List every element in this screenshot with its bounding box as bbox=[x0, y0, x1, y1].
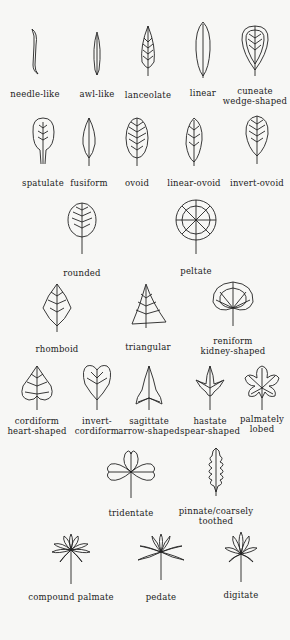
leaf-label: fusiform bbox=[66, 178, 112, 188]
pedate-leaf-icon bbox=[136, 532, 186, 582]
ovoid-leaf-icon bbox=[124, 116, 150, 166]
leaf-label: tridentate bbox=[96, 508, 166, 518]
hastate-leaf-icon bbox=[194, 364, 226, 410]
leaf-peltate: peltate bbox=[166, 198, 226, 276]
leaf-invert-ovoid: invert-ovoid bbox=[226, 114, 288, 188]
leaf-pinnate: pinnate/coarsely toothed bbox=[176, 446, 256, 526]
leaf-label: pinnate/coarsely bbox=[176, 506, 256, 516]
leaf-spatulate: spatulate bbox=[18, 116, 68, 188]
triangular-leaf-icon bbox=[128, 282, 168, 328]
leaf-label: sagittate bbox=[118, 416, 180, 426]
leaf-label: invert- bbox=[70, 416, 124, 426]
leaf-label: toothed bbox=[176, 516, 256, 526]
rhomboid-leaf-icon bbox=[41, 282, 73, 332]
leaf-linear-ovoid: linear-ovoid bbox=[166, 116, 222, 188]
leaf-label: pedate bbox=[134, 592, 188, 602]
leaf-sagittate: sagittate arrow-shaped bbox=[118, 364, 180, 436]
leaf-label: kidney-shaped bbox=[200, 346, 266, 356]
leaf-label: rounded bbox=[52, 268, 112, 278]
leaf-label: rhomboid bbox=[28, 344, 86, 354]
leaf-label: compound palmate bbox=[26, 592, 116, 602]
palmately-lobed-leaf-icon bbox=[243, 364, 281, 410]
cuneate-leaf-icon bbox=[239, 24, 271, 76]
leaf-label: invert-ovoid bbox=[226, 178, 288, 188]
invert-cordiform-leaf-icon bbox=[81, 364, 113, 410]
leaf-rhomboid: rhomboid bbox=[28, 282, 86, 354]
digitate-leaf-icon bbox=[223, 530, 259, 582]
leaf-palmately-lobed: palmately lobed bbox=[236, 364, 288, 434]
leaf-lanceolate: lanceolate bbox=[122, 24, 174, 100]
leaf-label: heart-shaped bbox=[4, 426, 70, 436]
leaf-ovoid: ovoid bbox=[114, 116, 160, 188]
lanceolate-leaf-icon bbox=[136, 24, 160, 78]
leaf-awl-like: awl-like bbox=[72, 30, 122, 99]
leaf-hastate: hastate spear-shaped bbox=[180, 364, 240, 436]
leaf-label: linear bbox=[180, 88, 226, 98]
leaf-label: triangular bbox=[118, 342, 178, 352]
linear-leaf-icon bbox=[193, 20, 213, 78]
leaf-label: lobed bbox=[236, 424, 288, 434]
tridentate-leaf-icon bbox=[105, 448, 157, 498]
leaf-label: awl-like bbox=[72, 89, 122, 99]
leaf-tridentate: tridentate bbox=[96, 448, 166, 518]
leaf-label: needle-like bbox=[10, 89, 60, 99]
invert-ovoid-leaf-icon bbox=[244, 114, 270, 166]
reniform-leaf-icon bbox=[210, 280, 256, 326]
leaf-cuneate: cuneate wedge-shaped bbox=[222, 24, 288, 106]
leaf-label: spear-shaped bbox=[180, 426, 240, 436]
cordiform-leaf-icon bbox=[19, 364, 55, 410]
leaf-reniform: reniform kidney-shaped bbox=[200, 280, 266, 356]
sagittate-leaf-icon bbox=[134, 364, 164, 410]
leaf-label: arrow-shaped bbox=[118, 426, 180, 436]
leaf-invert-cordiform: invert- cordiform bbox=[70, 364, 124, 436]
leaf-label: palmately bbox=[236, 414, 288, 424]
needle-like-leaf-icon bbox=[25, 25, 45, 77]
leaf-label: reniform bbox=[200, 336, 266, 346]
leaf-cordiform: cordiform heart-shaped bbox=[4, 364, 70, 436]
leaf-fusiform: fusiform bbox=[66, 116, 112, 188]
leaf-triangular: triangular bbox=[118, 282, 178, 352]
leaf-label: hastate bbox=[180, 416, 240, 426]
leaf-pedate: pedate bbox=[134, 532, 188, 602]
leaf-label: cuneate bbox=[222, 86, 288, 96]
leaf-digitate: digitate bbox=[214, 530, 268, 600]
leaf-label: spatulate bbox=[18, 178, 68, 188]
leaf-label: cordiform bbox=[70, 426, 124, 436]
awl-like-leaf-icon bbox=[87, 30, 107, 77]
leaf-label: digitate bbox=[214, 590, 268, 600]
leaf-rounded: rounded bbox=[52, 200, 112, 278]
leaf-label: cordiform bbox=[4, 416, 70, 426]
leaf-compound-palmate: compound palmate bbox=[26, 532, 116, 602]
fusiform-leaf-icon bbox=[80, 116, 98, 166]
leaf-label: ovoid bbox=[114, 178, 160, 188]
leaf-label: linear-ovoid bbox=[166, 178, 222, 188]
spatulate-leaf-icon bbox=[30, 116, 56, 166]
leaf-label: peltate bbox=[166, 266, 226, 276]
pinnate-leaf-icon bbox=[204, 446, 228, 496]
peltate-leaf-icon bbox=[174, 198, 218, 254]
leaf-label: lanceolate bbox=[122, 90, 174, 100]
rounded-leaf-icon bbox=[66, 200, 98, 254]
leaf-needle-like: needle-like bbox=[10, 25, 60, 99]
compound-palmate-leaf-icon bbox=[50, 532, 92, 584]
leaf-label: wedge-shaped bbox=[222, 96, 288, 106]
leaf-linear: linear bbox=[180, 20, 226, 98]
linear-ovoid-leaf-icon bbox=[183, 116, 205, 166]
